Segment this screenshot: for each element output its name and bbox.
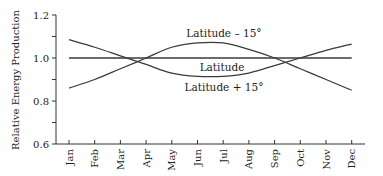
x-tick-label-nov: Nov <box>321 149 332 170</box>
x-tick-label-dec: Dec <box>346 149 357 169</box>
curve-label-2: Latitude + 15° <box>185 81 264 93</box>
x-tick-label-oct: Oct <box>295 149 306 167</box>
energy-production-chart: 0.60.81.01.2JanFebMarAprMayJunJulAugSepO… <box>0 0 383 176</box>
curve-label-1: Latitude <box>200 61 245 73</box>
y-tick-label: 0.6 <box>33 139 49 150</box>
x-tick-label-jan: Jan <box>64 148 75 166</box>
x-tick-label-feb: Feb <box>89 149 100 168</box>
x-tick-label-jun: Jun <box>192 148 203 166</box>
x-tick-label-aug: Aug <box>243 148 254 170</box>
y-tick-label: 1.0 <box>33 53 49 64</box>
x-tick-label-sep: Sep <box>269 149 280 168</box>
curve-labels: Latitude – 15°LatitudeLatitude + 15° <box>185 27 264 93</box>
y-tick-label: 1.2 <box>33 10 49 21</box>
chart-svg: 0.60.81.01.2JanFebMarAprMayJunJulAugSepO… <box>0 0 383 176</box>
curve-label-0: Latitude – 15° <box>186 27 261 39</box>
y-axis-title: Relative Energy Production <box>10 9 21 149</box>
x-tick-label-apr: Apr <box>141 149 152 169</box>
y-tick-label: 0.8 <box>33 96 49 107</box>
x-tick-label-jul: Jul <box>218 149 229 164</box>
x-tick-label-may: May <box>166 149 177 171</box>
x-tick-label-mar: Mar <box>115 149 126 170</box>
